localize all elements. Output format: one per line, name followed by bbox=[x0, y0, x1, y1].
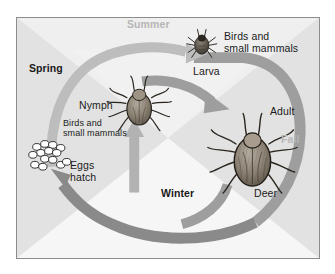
arrow-eggs-to-nymph bbox=[124, 119, 144, 192]
host-label-adult: Deer bbox=[254, 188, 277, 200]
season-label-spring: Spring bbox=[29, 63, 63, 75]
diagram-page: Spring Summer Fall Winter Larva Birds an… bbox=[0, 0, 335, 274]
stage-label-adult: Adult bbox=[270, 106, 294, 118]
host-label-larva: Birds and small mammals bbox=[224, 31, 298, 55]
host-label-nymph: Birds and small mammals bbox=[63, 118, 127, 138]
diagram-frame: Spring Summer Fall Winter Larva Birds an… bbox=[16, 17, 320, 259]
stage-label-larva: Larva bbox=[193, 66, 220, 78]
season-label-summer: Summer bbox=[127, 19, 170, 31]
arrow-nymph-to-adult bbox=[142, 80, 229, 113]
season-label-winter: Winter bbox=[161, 188, 194, 200]
stage-label-nymph: Nymph bbox=[79, 100, 113, 112]
season-label-fall: Fall bbox=[281, 134, 300, 146]
stage-label-eggs: Eggs hatch bbox=[70, 160, 96, 184]
